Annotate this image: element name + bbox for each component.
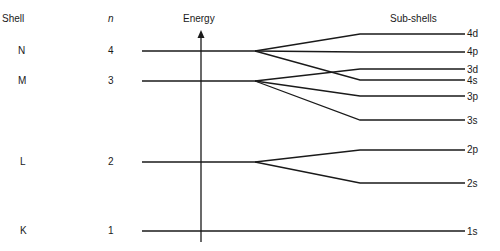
subshell-label-3p: 3p xyxy=(467,91,478,103)
subshell-4d-line xyxy=(255,34,465,51)
subshell-label-2p: 2p xyxy=(467,144,478,156)
subshell-2s-line xyxy=(255,162,465,183)
subshell-4p-line xyxy=(255,51,465,52)
subshell-label-1s: 1s xyxy=(467,226,478,238)
subshell-label-2s: 2s xyxy=(467,178,478,190)
subshell-label-3s: 3s xyxy=(467,115,478,127)
subshell-4s-line xyxy=(255,51,465,80)
subshell-label-4d: 4d xyxy=(467,28,478,40)
subshell-3p-line xyxy=(255,81,465,96)
subshell-2p-line xyxy=(255,150,465,162)
subshell-3d-line xyxy=(255,69,465,81)
energy-level-diagram xyxy=(0,0,500,251)
arrow-up-icon xyxy=(198,30,205,38)
subshell-3s-line xyxy=(255,81,465,120)
subshell-label-4s: 4s xyxy=(467,75,478,87)
subshell-label-4p: 4p xyxy=(467,46,478,58)
